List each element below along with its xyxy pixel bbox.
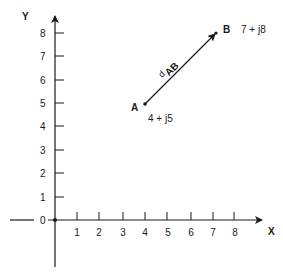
x-tick-label: 1 — [74, 227, 80, 238]
y-tick-label: 6 — [40, 75, 46, 86]
x-axis: X 0 1 2 3 4 5 6 7 8 — [10, 212, 275, 238]
point-a — [143, 102, 147, 106]
y-tick-label: 8 — [40, 28, 46, 39]
x-tick-label: 8 — [232, 227, 238, 238]
y-tick-label: 7 — [40, 51, 46, 62]
y-tick-label: 1 — [40, 192, 46, 203]
y-axis: Y 1 2 3 4 5 6 7 8 — [22, 11, 64, 267]
origin-label: 0 — [40, 215, 46, 226]
x-tick-label: 5 — [165, 227, 171, 238]
x-tick-label: 7 — [210, 227, 216, 238]
y-tick-label: 5 — [40, 98, 46, 109]
x-ticks — [77, 212, 234, 220]
y-tick-label: 2 — [40, 168, 46, 179]
x-tick-label: 4 — [142, 227, 148, 238]
point-b-label: B — [223, 24, 230, 35]
x-tick-label: 2 — [96, 227, 102, 238]
x-axis-label: X — [268, 226, 275, 237]
point-b — [214, 31, 217, 34]
point-b-complex: 7 + j8 — [241, 24, 266, 35]
vector-ab: d AB — [143, 31, 217, 105]
origin-point — [53, 218, 57, 222]
y-tick-labels: 1 2 3 4 5 6 7 8 — [40, 28, 46, 203]
point-a-complex: 4 + j5 — [148, 113, 173, 124]
y-tick-label: 3 — [40, 145, 46, 156]
x-tick-label: 6 — [188, 227, 194, 238]
y-axis-label: Y — [22, 11, 29, 22]
y-ticks — [55, 33, 64, 197]
complex-plane-diagram: Y 1 2 3 4 5 6 7 8 X 0 — [0, 0, 283, 277]
x-tick-label: 3 — [120, 227, 126, 238]
vector-label: d AB — [156, 58, 180, 82]
x-tick-labels: 1 2 3 4 5 6 7 8 — [74, 227, 238, 238]
point-a-label: A — [131, 102, 138, 113]
y-tick-label: 4 — [40, 121, 46, 132]
